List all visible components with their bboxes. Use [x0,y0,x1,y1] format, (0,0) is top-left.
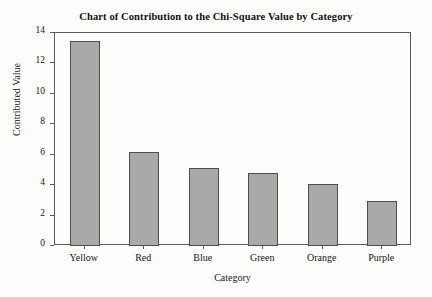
x-axis-tick-label: Yellow [70,252,98,263]
y-axis-tick-mark [50,154,54,155]
x-axis-tick-mark [203,245,204,249]
bar-red[interactable] [129,152,159,246]
bar-yellow[interactable] [70,41,100,246]
y-axis-tick-label: 8 [40,116,45,126]
y-axis-title: Contributed Value [11,40,22,160]
x-axis-tick-mark [143,245,144,249]
bar-purple[interactable] [367,201,397,246]
y-axis-tick-mark [50,123,54,124]
x-axis-tick-label: Red [135,252,151,263]
x-axis-tick-mark [322,245,323,249]
y-axis-tick-label: 10 [36,86,46,96]
y-axis-tick-label: 12 [36,55,46,65]
x-axis-tick-label: Orange [307,252,336,263]
plot-area [54,32,411,245]
x-axis-tick-mark [381,245,382,249]
bar-blue[interactable] [189,168,219,246]
y-axis-tick-mark [50,184,54,185]
y-axis-tick-label: 6 [40,147,45,157]
bar-green[interactable] [248,173,278,246]
y-axis-tick-mark [50,245,54,246]
x-axis-tick-label: Purple [368,252,394,263]
chart-title: Chart of Contribution to the Chi-Square … [0,11,432,22]
x-axis-tick-mark [84,245,85,249]
y-axis-tick-label: 4 [40,177,45,187]
y-axis-tick-mark [50,32,54,33]
y-axis-tick-label: 2 [40,208,45,218]
x-axis-title: Category [54,272,411,283]
y-axis-tick-mark [50,93,54,94]
chart-page: Chart of Contribution to the Chi-Square … [0,0,432,297]
y-axis-tick-label: 0 [40,238,45,248]
y-axis-tick-mark [50,62,54,63]
y-axis-tick-label: 14 [36,25,46,35]
y-axis-tick-mark [50,215,54,216]
x-axis-tick-label: Blue [193,252,212,263]
x-axis-tick-mark [262,245,263,249]
bar-orange[interactable] [308,184,338,246]
x-axis-tick-label: Green [250,252,274,263]
